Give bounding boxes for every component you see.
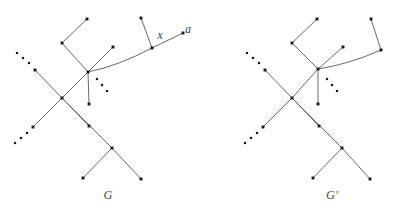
- edge-uppermid-leaf-hub: [88, 47, 113, 72]
- vertex-crossing-node: [291, 97, 294, 100]
- edge-upperleft-leaf-elbow: [62, 19, 87, 43]
- figure-canvas: GG′xa: [0, 0, 393, 213]
- ellipsis-upper-left-dot-1: [16, 52, 18, 54]
- ellipsis-lower-left: [14, 132, 28, 144]
- edge-midlower-crossing: [292, 98, 319, 126]
- vertex-right-bend-node: [380, 49, 383, 52]
- vertex-fork-leaf-left: [312, 177, 315, 180]
- vertex-upper-mid-leaf: [112, 46, 115, 49]
- vertex-lower-chain-node: [32, 126, 35, 129]
- vertex-upper-left-leaf: [316, 18, 319, 21]
- caption-graph-G: G: [103, 188, 112, 202]
- vertex-upper-chain-node: [34, 69, 37, 72]
- edge-fork-leaf-right: [342, 148, 370, 179]
- ellipsis-hub-right-dot-1: [96, 78, 98, 80]
- edge-upperleft-leaf-elbow: [292, 19, 317, 43]
- vertex-upper-left-leaf: [86, 18, 89, 21]
- ellipsis-upper-left: [16, 52, 30, 64]
- edge-upperchain-crossing: [35, 70, 62, 98]
- vertex-hub: [87, 71, 90, 74]
- graph-figure: GG′xa: [0, 0, 393, 213]
- ellipsis-upper-left-dot-2: [22, 57, 24, 59]
- edge-crossing-hub: [292, 69, 318, 98]
- vertex-upper-chain-node: [264, 69, 267, 72]
- label-x: x: [156, 29, 163, 41]
- edge-hub-to-x-curve: [88, 48, 152, 72]
- vertex-crossing-node: [61, 97, 64, 100]
- vertex-fork-leaf-right: [369, 178, 372, 181]
- vertex-mid-lower-node: [88, 125, 91, 128]
- vertex-lower-chain-node: [262, 126, 265, 129]
- edge-hub-to-bend-curve: [318, 50, 381, 69]
- vertex-fork-node: [111, 147, 114, 150]
- ellipsis-hub-right-dot-1: [326, 78, 328, 80]
- vertex-vertex-a: [182, 32, 185, 35]
- vertex-fork-leaf-left: [82, 177, 85, 180]
- edge-fork-leaf-left: [313, 148, 342, 178]
- edge-crossing-lowerchain: [33, 98, 62, 127]
- vertex-mid-lower-node: [318, 125, 321, 128]
- ellipsis-upper-left: [246, 52, 260, 64]
- vertex-hub: [317, 68, 320, 71]
- ellipsis-hub-right-dot-3: [106, 90, 108, 92]
- vertex-upper-left-elbow: [291, 42, 294, 45]
- vertex-upper-left-elbow: [61, 42, 64, 45]
- ellipsis-hub-right-dot-3: [336, 90, 338, 92]
- vertex-upper-mid-leaf: [342, 46, 345, 49]
- ellipsis-hub-right-dot-2: [331, 84, 333, 86]
- ellipsis-lower-left: [244, 132, 258, 144]
- ellipsis-lower-left-dot-1: [26, 132, 28, 134]
- vertex-stem-leaf: [317, 103, 320, 106]
- vertex-stem-leaf: [88, 103, 91, 106]
- graph-G-prime: G′: [244, 18, 383, 202]
- edge-elbow-hub: [62, 43, 88, 72]
- ellipsis-lower-left-dot-2: [250, 137, 252, 139]
- ellipsis-upper-left-dot-2: [252, 57, 254, 59]
- edge-upperchain-crossing: [265, 70, 292, 98]
- vertex-fork-leaf-right: [140, 178, 143, 181]
- edge-uppermid-leaf-hub: [318, 47, 343, 69]
- edge-right-top-leaf-bend: [371, 19, 381, 50]
- ellipsis-upper-left-dot-3: [258, 62, 260, 64]
- ellipsis-hub-right-dot-2: [101, 84, 103, 86]
- ellipsis-lower-left-dot-3: [244, 142, 246, 144]
- caption-graph-G-prime: G′: [326, 188, 338, 202]
- graph-G: G: [14, 17, 185, 202]
- edge-leaf-above-x: [141, 18, 152, 48]
- ellipsis-upper-left-dot-3: [28, 62, 30, 64]
- edge-midlower-hub-diag: [62, 98, 89, 126]
- ellipsis-hub-right: [96, 78, 108, 92]
- vertex-fork-node: [341, 147, 344, 150]
- edge-fork-leaf-left: [83, 148, 112, 178]
- ellipsis-lower-left-dot-2: [20, 137, 22, 139]
- label-a: a: [185, 23, 191, 35]
- ellipsis-upper-left-dot-1: [246, 52, 248, 54]
- edge-fork-leaf-right: [112, 148, 141, 179]
- vertex-leaf-above-x: [140, 17, 143, 20]
- vertex-right-top-leaf: [370, 18, 373, 21]
- ellipsis-hub-right: [326, 78, 338, 92]
- edge-crossing-hub: [62, 72, 88, 98]
- edge-elbow-hub: [292, 43, 318, 69]
- ellipsis-lower-left-dot-1: [256, 132, 258, 134]
- vertex-branch-x: [151, 47, 154, 50]
- ellipsis-lower-left-dot-3: [14, 142, 16, 144]
- edge-crossing-lowerchain: [263, 98, 292, 127]
- edge-hub-stem-leaf: [88, 72, 89, 104]
